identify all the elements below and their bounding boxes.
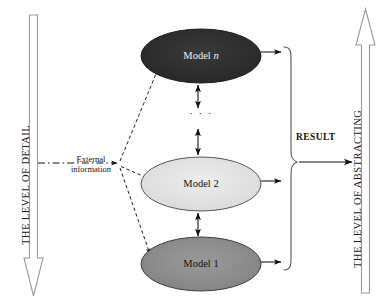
axis-right-label: THE LEVEL OF ABSTRACTING — [352, 110, 363, 268]
result-brace — [284, 47, 297, 270]
output-arrows — [261, 52, 281, 262]
external-information-label: External information — [55, 155, 127, 174]
node-label-model-n-text: Model — [183, 50, 210, 61]
external-information-line2: information — [55, 165, 127, 175]
dashed-arrow-to-model-n — [120, 63, 161, 161]
axis-left-label: THE LEVEL OF DETAIL — [20, 125, 31, 245]
node-label-model-n: Model n — [141, 50, 261, 61]
diagram-canvas: THE LEVEL OF DETAIL THE LEVEL OF ABSTRAC… — [0, 0, 392, 305]
vertical-continuation-dots: · · · — [189, 108, 213, 120]
result-label: RESULT — [296, 133, 336, 143]
node-label-model-2: Model 2 — [141, 178, 261, 189]
node-label-model-n-index: n — [213, 50, 218, 61]
node-label-model-1: Model 1 — [141, 258, 261, 269]
